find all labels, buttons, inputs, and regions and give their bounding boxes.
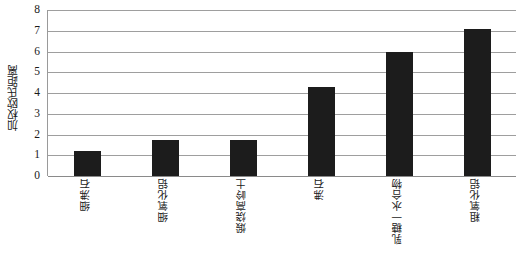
x-axis-label-text: 细氧化铝 bbox=[158, 178, 169, 222]
x-axis-label: 沸石 bbox=[290, 178, 350, 200]
x-axis-label: 粗氧化铝 bbox=[446, 178, 506, 222]
bar[interactable] bbox=[230, 140, 257, 176]
x-axis-category-labels: 细沸石细氧化铝煅烧高岭土沸石乳糖一水合物粗氧化铝 bbox=[47, 178, 515, 266]
bars-layer bbox=[48, 10, 516, 176]
x-axis-label-text: 细沸石 bbox=[80, 178, 91, 211]
bar[interactable] bbox=[74, 151, 101, 176]
y-axis-title-text: 加权欧氏距离 bbox=[8, 65, 19, 131]
x-axis-label: 乳糖一水合物 bbox=[368, 178, 428, 244]
x-axis-label: 细氧化铝 bbox=[134, 178, 194, 222]
x-axis-label-text: 乳糖一水合物 bbox=[392, 178, 403, 244]
bar[interactable] bbox=[386, 52, 413, 177]
x-axis-label-text: 煅烧高岭土 bbox=[236, 178, 247, 233]
plot-area bbox=[47, 10, 516, 176]
bar[interactable] bbox=[152, 140, 179, 176]
y-tick-label-4: 4 bbox=[34, 87, 40, 99]
y-axis-tick-labels: 876543210 bbox=[22, 10, 44, 176]
bar[interactable] bbox=[464, 29, 491, 176]
y-tick-label-1: 1 bbox=[34, 150, 40, 162]
gridline-0 bbox=[48, 176, 516, 177]
bar[interactable] bbox=[308, 87, 335, 176]
y-tick-label-6: 6 bbox=[34, 46, 40, 58]
y-tick-label-0: 0 bbox=[34, 170, 40, 182]
x-axis-label: 细沸石 bbox=[56, 178, 116, 211]
x-axis-label: 煅烧高岭土 bbox=[212, 178, 272, 233]
y-tick-label-5: 5 bbox=[34, 67, 40, 79]
x-axis-label-text: 粗氧化铝 bbox=[470, 178, 481, 222]
bar-chart: 加权欧氏距离 876543210 细沸石细氧化铝煅烧高岭土沸石乳糖一水合物粗氧化… bbox=[0, 0, 523, 266]
x-axis-label-text: 沸石 bbox=[314, 178, 325, 200]
y-tick-label-2: 2 bbox=[34, 129, 40, 141]
y-tick-label-3: 3 bbox=[34, 108, 40, 120]
y-tick-label-8: 8 bbox=[34, 4, 40, 16]
y-axis-title: 加权欧氏距离 bbox=[4, 38, 22, 158]
y-tick-label-7: 7 bbox=[34, 25, 40, 37]
